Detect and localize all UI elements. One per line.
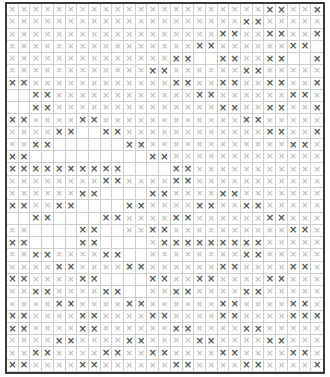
stitch-mark-light: × — [171, 249, 183, 261]
stitch-mark-light: × — [159, 286, 171, 298]
empty-cell: × — [89, 213, 101, 225]
stitch-mark-light: × — [77, 90, 89, 102]
stitch-mark-light: × — [19, 335, 31, 347]
stitch-mark-dark: × — [241, 16, 253, 28]
stitch-mark-light: × — [300, 188, 312, 200]
stitch-mark-dark: × — [206, 41, 218, 53]
stitch-mark-dark: × — [229, 237, 241, 249]
stitch-mark-light: × — [206, 188, 218, 200]
stitch-mark-dark: × — [89, 360, 101, 372]
stitch-mark-light: × — [147, 323, 159, 335]
stitch-mark-light: × — [42, 188, 54, 200]
stitch-mark-light: × — [206, 65, 218, 77]
stitch-mark-light: × — [19, 188, 31, 200]
stitch-mark-light: × — [276, 139, 288, 151]
stitch-mark-dark: × — [218, 78, 230, 90]
stitch-mark-light: × — [159, 102, 171, 114]
empty-cell: × — [30, 237, 42, 249]
stitch-mark-light: × — [171, 347, 183, 359]
empty-cell: × — [101, 237, 113, 249]
stitch-mark-light: × — [241, 102, 253, 114]
empty-cell: × — [124, 249, 136, 261]
stitch-mark-light: × — [101, 41, 113, 53]
stitch-mark-light: × — [229, 139, 241, 151]
stitch-mark-light: × — [288, 176, 300, 188]
stitch-mark-light: × — [218, 176, 230, 188]
stitch-mark-light: × — [159, 29, 171, 41]
empty-cell: × — [124, 163, 136, 175]
empty-cell: × — [77, 200, 89, 212]
stitch-mark-dark: × — [159, 311, 171, 323]
stitch-mark-dark: × — [147, 311, 159, 323]
stitch-mark-dark: × — [159, 237, 171, 249]
stitch-mark-light: × — [229, 225, 241, 237]
stitch-mark-light: × — [194, 78, 206, 90]
stitch-mark-dark: × — [19, 237, 31, 249]
stitch-mark-dark: × — [77, 274, 89, 286]
stitch-mark-dark: × — [112, 347, 124, 359]
empty-cell: × — [66, 225, 78, 237]
stitch-mark-light: × — [159, 335, 171, 347]
stitch-mark-light: × — [159, 176, 171, 188]
stitch-mark-light: × — [218, 249, 230, 261]
stitch-mark-light: × — [66, 323, 78, 335]
stitch-mark-light: × — [54, 323, 66, 335]
stitch-mark-light: × — [288, 286, 300, 298]
stitch-mark-dark: × — [66, 298, 78, 310]
empty-cell: × — [101, 139, 113, 151]
stitch-mark-light: × — [276, 360, 288, 372]
stitch-mark-light: × — [136, 16, 148, 28]
stitch-mark-light: × — [194, 249, 206, 261]
stitch-mark-light: × — [229, 114, 241, 126]
empty-cell: × — [89, 200, 101, 212]
stitch-mark-light: × — [171, 90, 183, 102]
stitch-mark-light: × — [54, 78, 66, 90]
stitch-mark-light: × — [229, 335, 241, 347]
stitch-mark-dark: × — [241, 249, 253, 261]
stitch-mark-light: × — [253, 127, 265, 139]
stitch-mark-light: × — [194, 225, 206, 237]
stitch-mark-dark: × — [300, 311, 312, 323]
stitch-mark-dark: × — [288, 298, 300, 310]
stitch-mark-light: × — [206, 360, 218, 372]
stitch-mark-light: × — [300, 176, 312, 188]
stitch-mark-light: × — [311, 335, 323, 347]
stitch-mark-light: × — [183, 151, 195, 163]
stitch-mark-dark: × — [19, 78, 31, 90]
stitch-mark-dark: × — [253, 16, 265, 28]
stitch-mark-light: × — [136, 213, 148, 225]
stitch-mark-light: × — [7, 176, 19, 188]
stitch-mark-dark: × — [300, 90, 312, 102]
stitch-mark-light: × — [147, 114, 159, 126]
stitch-mark-light: × — [147, 90, 159, 102]
stitch-mark-dark: × — [30, 163, 42, 175]
stitch-mark-light: × — [124, 114, 136, 126]
stitch-mark-dark: × — [229, 311, 241, 323]
stitch-mark-light: × — [77, 41, 89, 53]
stitch-mark-light: × — [253, 78, 265, 90]
stitch-mark-dark: × — [136, 262, 148, 274]
stitch-mark-light: × — [218, 114, 230, 126]
stitch-mark-light: × — [101, 114, 113, 126]
stitch-mark-light: × — [183, 16, 195, 28]
stitch-mark-light: × — [101, 4, 113, 16]
empty-cell: × — [124, 237, 136, 249]
stitch-mark-dark: × — [241, 200, 253, 212]
empty-cell: × — [112, 237, 124, 249]
stitch-mark-light: × — [30, 78, 42, 90]
stitch-mark-light: × — [42, 78, 54, 90]
stitch-mark-dark: × — [218, 29, 230, 41]
stitch-mark-light: × — [30, 127, 42, 139]
empty-cell: × — [54, 225, 66, 237]
stitch-mark-dark: × — [124, 298, 136, 310]
stitch-mark-light: × — [206, 139, 218, 151]
stitch-mark-light: × — [264, 262, 276, 274]
stitch-mark-light: × — [300, 286, 312, 298]
stitch-mark-light: × — [276, 262, 288, 274]
empty-cell: × — [101, 151, 113, 163]
stitch-mark-light: × — [7, 29, 19, 41]
stitch-mark-light: × — [42, 298, 54, 310]
stitch-mark-light: × — [136, 176, 148, 188]
stitch-mark-light: × — [171, 298, 183, 310]
stitch-mark-dark: × — [241, 323, 253, 335]
